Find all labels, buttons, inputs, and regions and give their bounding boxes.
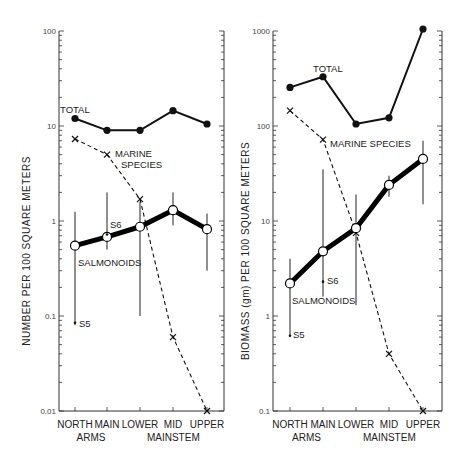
x-tick-label: UPPER <box>190 419 224 430</box>
annotation-s5: S5 <box>293 329 305 340</box>
total-point <box>419 25 426 32</box>
x-tick-label: LOWER <box>338 419 375 430</box>
total-point <box>319 73 326 80</box>
annotation-salmonoids: SALMONOIDS <box>292 295 355 306</box>
y-tick-label: 0.01 <box>40 407 56 416</box>
y-tick-label: 0.1 <box>259 407 271 416</box>
salmonoid-point <box>71 241 80 250</box>
total-point <box>385 114 392 121</box>
y-tick-label: 10 <box>47 122 56 131</box>
x-group-label: MAINSTEM <box>147 432 200 443</box>
y-axis-label: NUMBER PER 100 SQUARE METERS <box>21 156 32 346</box>
x-tick-label: MID <box>380 419 398 430</box>
y-tick-label: 1 <box>266 312 271 321</box>
salmonoid-point <box>203 225 212 234</box>
salmonoid-point <box>169 206 178 215</box>
station-marker <box>289 334 292 337</box>
x-tick-label: NORTH <box>57 419 92 430</box>
total-point <box>136 127 143 134</box>
salmonoid-point <box>319 247 328 256</box>
panel-biomass: 0.11101001000NORTHMAINLOWERMIDUPPERARMSM… <box>240 25 442 443</box>
salmonoid-point <box>286 279 295 288</box>
marine-point <box>72 136 78 142</box>
station-marker <box>322 280 325 283</box>
total-point <box>286 84 293 91</box>
x-group-label: ARMS <box>292 432 321 443</box>
salmonoid-point <box>352 224 361 233</box>
x-group-label: ARMS <box>77 432 106 443</box>
annotation-s5: S5 <box>79 318 91 329</box>
marine-point <box>320 137 326 143</box>
total-point <box>71 115 78 122</box>
marine-series-line <box>75 139 207 411</box>
annotation-total: TOTAL <box>313 63 343 74</box>
x-tick-label: MID <box>164 419 182 430</box>
annotation-species: SPECIES <box>121 159 162 170</box>
fish-density-biomass-figure: 0.010.1110100NORTHMAINLOWERMIDUPPERARMSM… <box>0 0 472 464</box>
y-tick-label: 10 <box>261 217 270 226</box>
annotation-marine: MARINE <box>115 148 152 159</box>
y-tick-label: 1 <box>52 217 57 226</box>
y-tick-label: 100 <box>257 122 271 131</box>
marine-point <box>170 334 176 340</box>
x-tick-label: MAIN <box>311 419 336 430</box>
y-tick-label: 1000 <box>252 27 270 36</box>
station-marker <box>74 321 77 324</box>
annotation-marine-species: MARINE SPECIES <box>330 138 411 149</box>
salmonoid-point <box>385 180 394 189</box>
annotation-s6: S6 <box>110 219 122 230</box>
annotation-salmonoids: SALMONOIDS <box>78 257 141 268</box>
total-point <box>352 120 359 127</box>
marine-point <box>104 152 110 158</box>
marine-point <box>287 108 293 114</box>
salmonoid-point <box>136 222 145 231</box>
total-point <box>103 127 110 134</box>
y-axis-label: BIOMASS (gm) PER 100 SQUARE METERS <box>240 142 251 360</box>
x-tick-label: NORTH <box>272 419 307 430</box>
total-series-line <box>290 29 423 124</box>
annotation-s6: S6 <box>327 275 339 286</box>
station-marker <box>106 233 109 236</box>
total-point <box>169 107 176 114</box>
x-tick-label: MAIN <box>95 419 120 430</box>
x-group-label: MAINSTEM <box>363 432 416 443</box>
panel-number-density: 0.010.1110100NORTHMAINLOWERMIDUPPERARMSM… <box>21 27 224 443</box>
x-tick-label: UPPER <box>406 419 440 430</box>
salmonoid-point <box>419 154 428 163</box>
marine-point <box>386 351 392 357</box>
y-tick-label: 0.1 <box>45 312 57 321</box>
y-tick-label: 100 <box>43 27 57 36</box>
total-point <box>203 120 210 127</box>
x-tick-label: LOWER <box>122 419 159 430</box>
annotation-total: TOTAL <box>60 104 90 115</box>
